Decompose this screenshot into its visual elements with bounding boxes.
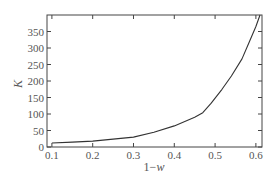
x-tick-label: 0.1 <box>45 149 59 161</box>
y-tick-label: 150 <box>28 92 45 104</box>
y-tick-label: 200 <box>28 75 45 87</box>
x-axis-label: 1−w <box>144 160 165 174</box>
plot-area <box>47 15 262 147</box>
x-tick-label: 0.6 <box>249 149 263 161</box>
x-tick-label: 0.5 <box>208 149 222 161</box>
x-axis-ticks: 0.10.20.30.40.50.6 <box>45 15 263 161</box>
series-line-k <box>52 15 260 143</box>
x-tick-label: 0.3 <box>127 149 141 161</box>
y-tick-label: 50 <box>33 125 45 137</box>
plot-frame <box>47 15 262 147</box>
y-axis-label: K <box>11 79 25 89</box>
y-tick-label: 250 <box>28 59 45 71</box>
y-tick-label: 300 <box>28 42 45 54</box>
x-tick-label: 0.4 <box>167 149 181 161</box>
y-tick-label: 100 <box>28 108 45 120</box>
y-tick-label: 0 <box>39 141 45 153</box>
y-tick-label: 350 <box>28 26 45 38</box>
x-tick-label: 0.2 <box>86 149 100 161</box>
chart-canvas: 0.10.20.30.40.50.6 050100150200250300350… <box>0 0 273 178</box>
